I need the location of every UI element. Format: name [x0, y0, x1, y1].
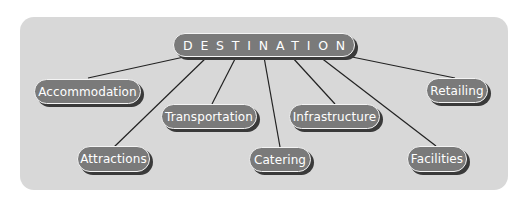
node-attractions: Attractions: [77, 146, 150, 172]
node-facilities: Facilities: [407, 146, 467, 172]
node-catering: Catering: [249, 147, 311, 172]
node-accommodation: Accommodation: [34, 79, 141, 104]
node-transportation: Transportation: [161, 104, 257, 129]
node-retailing: Retailing: [426, 78, 488, 103]
root-node-destination: DESTINATION: [173, 33, 355, 57]
node-infrastructure: Infrastructure: [289, 104, 380, 129]
